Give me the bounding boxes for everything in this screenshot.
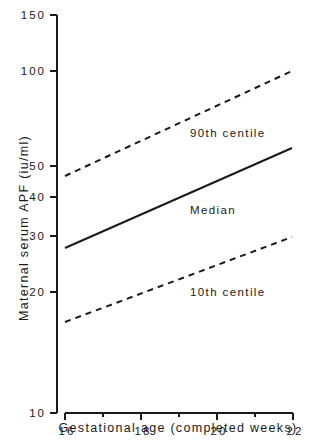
label-median: Median (190, 204, 236, 216)
y-tick-50: 50 (29, 160, 46, 172)
y-tick-150: 150 (21, 9, 46, 21)
series-10th-centile (65, 237, 292, 322)
y-tick-40: 40 (29, 191, 46, 203)
series-median (65, 148, 292, 248)
series-90th-centile (65, 71, 292, 176)
chart: 150 100 50 40 30 20 10 Maternal serum AP… (0, 0, 310, 441)
y-tick-100: 100 (21, 65, 46, 77)
x-axis-title: Gestational age (completed weeks) (59, 421, 298, 435)
y-ticks (50, 15, 57, 413)
y-tick-10: 10 (29, 407, 46, 419)
label-90th-centile: 90th centile (190, 127, 266, 139)
y-tick-20: 20 (29, 286, 46, 298)
y-axis-title: Maternal serum APF (iu/ml) (17, 135, 31, 321)
x-ticks (65, 413, 293, 420)
label-10th-centile: 10th centile (190, 286, 266, 298)
y-tick-30: 30 (29, 230, 46, 242)
